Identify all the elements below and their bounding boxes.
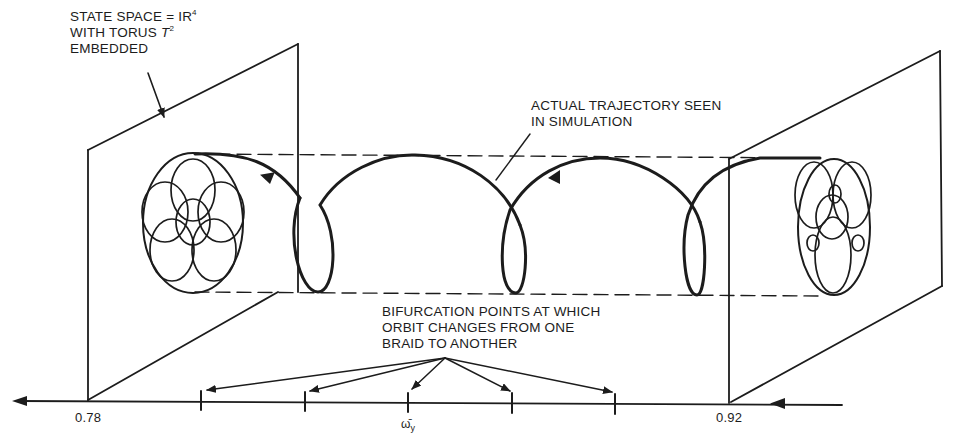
trajectory-label-line1: ACTUAL TRAJECTORY SEEN bbox=[531, 98, 721, 114]
bifurcation-label: BIFURCATION POINTS AT WHICH ORBIT CHANGE… bbox=[382, 304, 600, 352]
trajectory-arrow-icon bbox=[260, 168, 279, 186]
trajectory-path bbox=[195, 154, 820, 295]
axis-left-arrow-icon bbox=[12, 396, 27, 406]
axis-right-value: 0.92 bbox=[716, 410, 742, 426]
diagram-canvas bbox=[0, 0, 958, 444]
state-space-line3: EMBEDDED bbox=[70, 41, 197, 57]
state-space-label: STATE SPACE = IR4 WITH TORUS T2 EMBEDDED bbox=[70, 9, 197, 57]
state-space-pointer bbox=[148, 73, 164, 117]
bifurcation-label-line2: ORBIT CHANGES FROM ONE bbox=[382, 320, 600, 336]
left-section-plane bbox=[88, 44, 298, 400]
right-torus-section bbox=[795, 159, 871, 295]
left-torus-section bbox=[142, 153, 244, 293]
right-section-plane bbox=[729, 51, 942, 403]
tube-envelope bbox=[195, 154, 820, 296]
trajectory-pointer bbox=[496, 134, 530, 180]
axis-left-value: 0.78 bbox=[75, 410, 101, 426]
axis-direction-arrow-icon bbox=[770, 398, 785, 409]
state-space-line1: STATE SPACE = IR4 bbox=[70, 9, 197, 25]
bifurcation-label-line1: BIFURCATION POINTS AT WHICH bbox=[382, 304, 600, 320]
parameter-symbol: ω̄y bbox=[401, 416, 415, 436]
bifurcation-pointers bbox=[207, 358, 612, 392]
trajectory-label-line2: IN SIMULATION bbox=[531, 114, 721, 130]
torus-braid-diagram: STATE SPACE = IR4 WITH TORUS T2 EMBEDDED… bbox=[0, 0, 958, 444]
bifurcation-label-line3: BRAID TO ANOTHER bbox=[382, 336, 600, 352]
state-space-line2: WITH TORUS T2 bbox=[70, 25, 197, 41]
trajectory-label: ACTUAL TRAJECTORY SEEN IN SIMULATION bbox=[531, 98, 721, 130]
